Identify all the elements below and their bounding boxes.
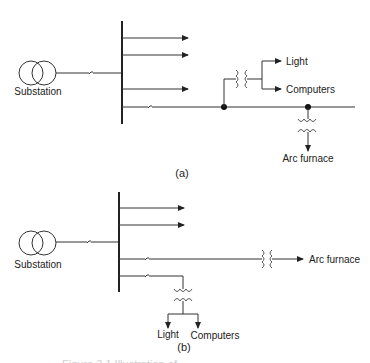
substation-label: Substation	[14, 86, 61, 97]
transformer-icon	[262, 250, 272, 268]
panel-a: Substation Light Computers	[14, 21, 355, 179]
figure-caption-cropped: Figure 3.1 Illustration of ...	[62, 357, 252, 363]
transformer-icon	[298, 119, 316, 132]
light-computers-feeder-line	[119, 275, 183, 289]
arc-furnace-label: Arc furnace	[282, 153, 334, 164]
transformer-icon	[236, 70, 247, 88]
substation-transformer-icon	[19, 231, 56, 255]
shared-feeder-line	[122, 106, 355, 108]
power-distribution-diagram: Substation Light Computers	[0, 0, 370, 363]
substation-label: Substation	[14, 259, 61, 270]
computers-label: Computers	[286, 84, 335, 95]
transformer-icon	[174, 289, 192, 301]
panel-b-caption: (b)	[177, 341, 190, 353]
light-label: Light	[157, 329, 179, 340]
panel-b: Substation Arc furnace Light Computers	[14, 192, 360, 353]
incoming-line	[56, 241, 119, 243]
light-label: Light	[286, 56, 308, 67]
substation-transformer-icon	[19, 61, 56, 85]
panel-a-caption: (a)	[175, 167, 188, 179]
arc-furnace-label: Arc furnace	[309, 254, 361, 265]
computers-label: Computers	[191, 330, 240, 341]
incoming-line	[56, 72, 122, 74]
arc-furnace-feeder-line	[119, 258, 262, 260]
